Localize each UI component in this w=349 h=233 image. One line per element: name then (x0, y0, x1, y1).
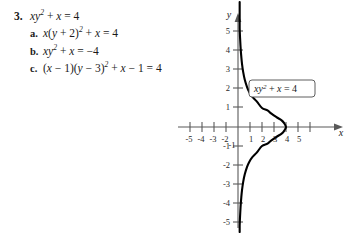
choice-c-row: c. (x − 1)(y − 3)2 + x − 1 = 4 (30, 61, 194, 76)
choice-b-row: b. xy2 + x = −4 (30, 44, 194, 59)
x-tick-label: -5 (185, 134, 192, 144)
y-tick-label: -3 (223, 179, 230, 189)
problem-equation-tail: + (44, 10, 56, 22)
y-tick-label: 5 (226, 26, 230, 36)
y-tick-label: -2 (223, 160, 230, 170)
y-tick-label: 3 (226, 64, 230, 74)
x-axis-label: x (338, 127, 344, 138)
choice-c-letter: c. (30, 61, 43, 76)
y-tick-label: 2 (226, 83, 230, 93)
choice-c-equation: (x − 1)(y − 3)2 + x − 1 = 4 (43, 61, 162, 76)
curve-label-text: xy2 + x = 4 (253, 83, 297, 94)
y-tick-label: -4 (223, 198, 231, 208)
problem-number: 3. (14, 9, 30, 24)
choice-a-equation: x(y + 2)2 + x = 4 (43, 26, 118, 41)
y-tick-label: 4 (226, 45, 231, 55)
x-tick-label: 2 (261, 134, 265, 144)
x-tick-labels: -5 -4 -3 -2 -1 1 2 3 4 5 (185, 134, 301, 150)
problem-block: 3. xy2 + x = 4 a. x(y + 2)2 + x = 4 b. x… (14, 9, 194, 79)
y-axis-label: y (226, 9, 232, 20)
y-tick-label: -1 (223, 141, 230, 151)
axes-group (178, 13, 343, 228)
x-tick-label: 4 (285, 134, 290, 144)
choice-a-row: a. x(y + 2)2 + x = 4 (30, 26, 194, 41)
curve-xy2-plus-x-equals-4 (240, 2, 286, 232)
coordinate-plane: -5 -4 -3 -2 -1 1 2 3 4 5 5 4 3 2 1 -1 -2… (176, 0, 349, 233)
choice-b-letter: b. (30, 44, 43, 59)
problem-equation: xy2 + x = 4 (30, 9, 79, 24)
curve-label-callout: xy2 + x = 4 (249, 80, 315, 97)
choice-b-equation: xy2 + x = −4 (43, 44, 99, 59)
x-tick-label: -4 (197, 134, 205, 144)
y-tick-label: 1 (226, 102, 230, 112)
x-tick-label: 5 (297, 134, 301, 144)
x-tick-label: 1 (249, 134, 253, 144)
y-tick-label: -5 (223, 217, 230, 227)
x-tick-label: -3 (209, 134, 216, 144)
problem-equation-base: xy (30, 10, 40, 22)
graph-panel: -5 -4 -3 -2 -1 1 2 3 4 5 5 4 3 2 1 -1 -2… (176, 0, 349, 233)
problem-statement-row: 3. xy2 + x = 4 (14, 9, 194, 24)
choice-a-letter: a. (30, 26, 43, 41)
